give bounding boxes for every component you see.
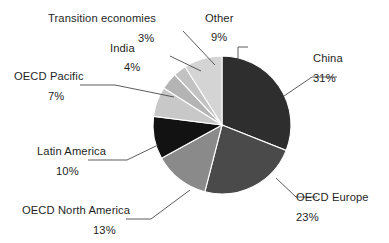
pie-chart-canvas: Other 9% Transition economies 3% India 4… — [0, 0, 389, 243]
label-latin-america-value: 10% — [56, 165, 79, 177]
label-latin-america-name: Latin America — [37, 145, 107, 157]
label-oecd-north-america-value: 13% — [93, 224, 116, 236]
label-oecd-europe-value: 23% — [296, 211, 319, 223]
label-oecd-pacific-name: OECD Pacific — [14, 70, 84, 82]
label-oecd-europe-name: OECD Europe — [296, 191, 369, 203]
label-transition-economies-name: Transition economies — [48, 12, 156, 24]
label-oecd-pacific-value: 7% — [48, 90, 64, 102]
label-other-name: Other — [205, 12, 234, 24]
label-transition-economies-value: 3% — [138, 32, 154, 44]
pie-slices-group — [153, 56, 291, 194]
pie-chart-figure: Other 9% Transition economies 3% India 4… — [0, 0, 389, 243]
label-china-value: 31% — [313, 72, 336, 84]
label-other-value: 9% — [211, 31, 227, 43]
label-oecd-north-america-name: OECD North America — [22, 204, 131, 216]
label-india-value: 4% — [124, 61, 140, 73]
label-india-name: India — [110, 42, 135, 54]
label-china-name: China — [313, 52, 343, 64]
